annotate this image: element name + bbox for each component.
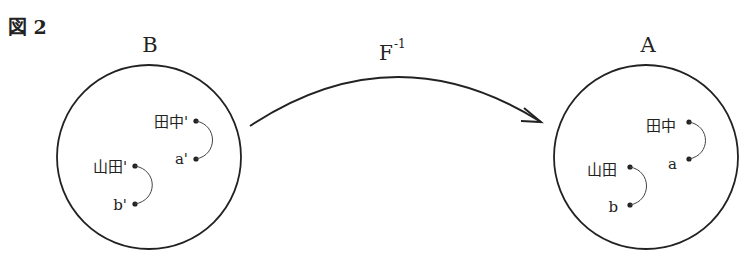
element-a-prime: a' [175, 150, 188, 168]
set-b: B 田中' a' 山田' b' [57, 33, 241, 249]
relation-arc [630, 167, 647, 205]
relation-arc [689, 122, 706, 159]
mapping-superscript: -1 [394, 37, 406, 51]
set-a: A 田中 a 山田 b [554, 33, 738, 249]
set-b-label: B [142, 33, 157, 57]
element-tanaka: 田中 [646, 117, 676, 135]
relation-arc [196, 121, 213, 159]
relation-arc [135, 166, 152, 204]
element-b-prime: b' [113, 196, 127, 214]
set-a-circle [554, 65, 738, 249]
arrow-head-icon [521, 108, 541, 122]
diagram-canvas: 図 2 B 田中' a' 山田' b' F -1 A 田中 a 山田 [0, 0, 756, 265]
mapping-label: F [379, 41, 393, 65]
set-b-circle [57, 65, 241, 249]
element-a: a [668, 155, 677, 173]
element-tanaka-prime: 田中' [154, 113, 188, 131]
figure-title: 図 2 [8, 16, 47, 38]
element-yamada-prime: 山田' [93, 158, 127, 176]
mapping-base: F [379, 41, 393, 65]
mapping-arrow: F -1 [250, 37, 541, 126]
element-b: b [608, 198, 618, 216]
arrow-curve [250, 77, 541, 126]
element-yamada: 山田 [587, 161, 617, 179]
set-a-label: A [639, 33, 656, 57]
